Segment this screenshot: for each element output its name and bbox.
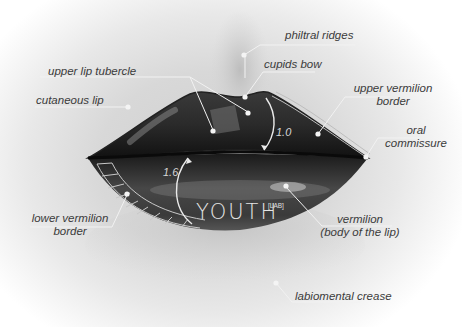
lip-illustration	[0, 0, 462, 327]
label-upper-vermilion-border: upper vermilion border	[348, 82, 438, 108]
label-cupids-bow: cupids bow	[264, 58, 322, 71]
lower-ratio-value: 1.6	[163, 166, 178, 178]
label-labiomental-crease: labiomental crease	[295, 290, 392, 303]
lip-anatomy-diagram: philtral ridges upper lip tubercle cupid…	[0, 0, 462, 327]
label-upper-lip-tubercle: upper lip tubercle	[48, 65, 136, 78]
upper-ratio-value: 1.0	[276, 126, 291, 138]
label-philtral-ridges: philtral ridges	[285, 29, 353, 42]
youth-watermark: YOUTH	[196, 200, 278, 224]
label-lower-vermilion-border: lower vermilion border	[22, 212, 118, 238]
label-cutaneous-lip: cutaneous lip	[36, 94, 104, 107]
label-vermilion-body: vermilion (body of the lip)	[312, 213, 408, 239]
lab-watermark-suffix: [LAB]	[268, 202, 284, 209]
label-oral-commissure: oral commissure	[376, 124, 456, 150]
